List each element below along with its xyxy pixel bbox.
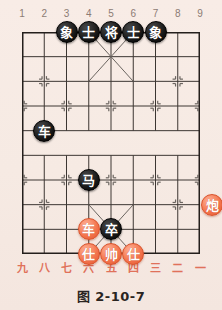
xiangqi-board[interactable]: 象士将士象车马卒炮车仕帅仕 bbox=[22, 32, 200, 254]
figure-caption: 图 2-10-7 bbox=[0, 286, 222, 305]
file-labels-top: 123456789 bbox=[0, 6, 222, 22]
piece-black-general[interactable]: 将 bbox=[100, 21, 122, 43]
piece-black-elephant-left[interactable]: 象 bbox=[56, 21, 78, 43]
rail-bottom-label-8: 二 bbox=[169, 260, 187, 276]
rail-bottom-label-1: 九 bbox=[13, 260, 31, 276]
rail-bottom-label-9: 一 bbox=[191, 260, 209, 276]
rail-top-label-9: 9 bbox=[191, 6, 209, 22]
piece-red-cannon[interactable]: 炮 bbox=[201, 194, 222, 216]
rail-top-label-7: 7 bbox=[147, 6, 165, 22]
piece-red-chariot[interactable]: 车 bbox=[78, 218, 100, 240]
rail-top-label-6: 6 bbox=[124, 6, 142, 22]
rail-bottom-label-7: 三 bbox=[147, 260, 165, 276]
rail-top-label-3: 3 bbox=[58, 6, 76, 22]
xiangqi-figure: 123456789 象士将士象车马卒炮车仕帅仕 九八七六五四三二一 图 2-10… bbox=[0, 0, 222, 310]
rail-top-label-2: 2 bbox=[35, 6, 53, 22]
rail-top-label-1: 1 bbox=[13, 6, 31, 22]
piece-black-advisor-left[interactable]: 士 bbox=[78, 21, 100, 43]
rail-bottom-label-3: 七 bbox=[58, 260, 76, 276]
rail-top-label-5: 5 bbox=[102, 6, 120, 22]
piece-red-advisor-left[interactable]: 仕 bbox=[78, 243, 100, 265]
rail-top-label-8: 8 bbox=[169, 6, 187, 22]
rail-bottom-label-2: 八 bbox=[35, 260, 53, 276]
piece-black-chariot[interactable]: 车 bbox=[33, 120, 55, 142]
piece-black-horse[interactable]: 马 bbox=[78, 169, 100, 191]
piece-black-elephant-right[interactable]: 象 bbox=[145, 21, 167, 43]
rail-top-label-4: 4 bbox=[80, 6, 98, 22]
piece-red-general[interactable]: 帅 bbox=[100, 243, 122, 265]
